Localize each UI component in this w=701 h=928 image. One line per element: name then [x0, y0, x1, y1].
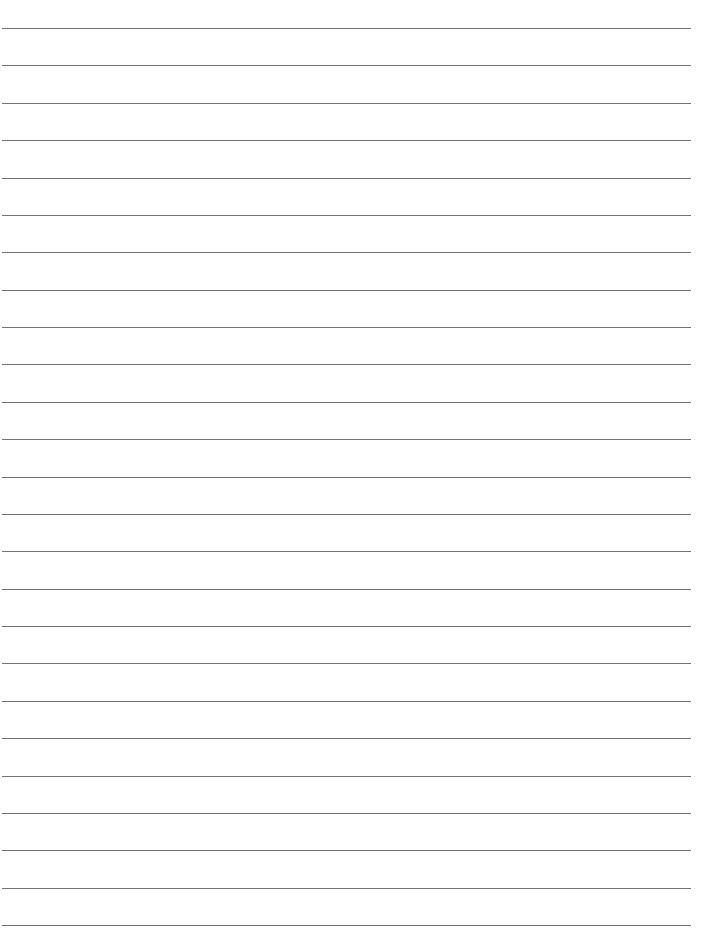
ruled-line: [2, 626, 691, 627]
ruled-line: [2, 888, 691, 889]
ruled-line: [2, 178, 691, 179]
ruled-line: [2, 439, 691, 440]
ruled-line: [2, 364, 691, 365]
ruled-line: [2, 477, 691, 478]
ruled-line: [2, 776, 691, 777]
ruled-line: [2, 327, 691, 328]
ruled-line: [2, 701, 691, 702]
ruled-line: [2, 140, 691, 141]
ruled-line: [2, 290, 691, 291]
ruled-line: [2, 663, 691, 664]
ruled-line: [2, 850, 691, 851]
ruled-line: [2, 813, 691, 814]
ruled-line: [2, 103, 691, 104]
ruled-line: [2, 215, 691, 216]
ruled-line: [2, 589, 691, 590]
ruled-line: [2, 925, 691, 926]
ruled-line: [2, 65, 691, 66]
ruled-line: [2, 28, 691, 29]
lined-paper-page: [0, 0, 701, 928]
ruled-line: [2, 402, 691, 403]
ruled-line: [2, 551, 691, 552]
ruled-line: [2, 514, 691, 515]
ruled-line: [2, 252, 691, 253]
ruled-line: [2, 738, 691, 739]
